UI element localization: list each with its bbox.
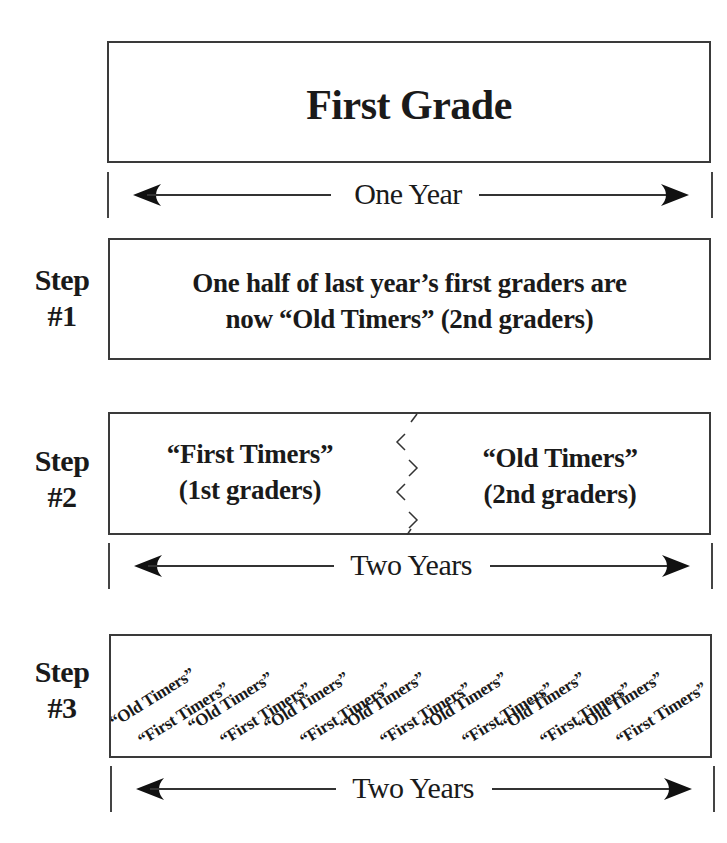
first-timers-group: “First Timers” (1st graders) bbox=[130, 436, 370, 508]
first-timers-label: “First Timers” bbox=[130, 436, 370, 472]
ruler-tick-left bbox=[108, 543, 110, 589]
step-1-text-line2: now “Old Timers” (2nd graders) bbox=[110, 301, 709, 337]
old-timers-label: “Old Timers” bbox=[445, 440, 675, 476]
step-1-text-line1: One half of last year’s first graders ar… bbox=[110, 265, 709, 301]
ruler-line-left bbox=[148, 565, 334, 567]
first-grade-box: First Grade bbox=[107, 41, 711, 163]
step-2-number: #2 bbox=[22, 479, 102, 515]
ruler-tick-left bbox=[110, 766, 112, 812]
arrow-right-icon bbox=[660, 555, 690, 577]
arrow-right-icon bbox=[659, 184, 689, 206]
two-years-ruler-2: Two Years bbox=[110, 766, 716, 812]
old-timers-group: “Old Timers” (2nd graders) bbox=[445, 440, 675, 512]
step-3-word: Step bbox=[22, 654, 102, 690]
ruler-line-right bbox=[479, 194, 669, 196]
zigzag-divider-icon bbox=[385, 412, 425, 535]
ruler-tick-left bbox=[107, 172, 109, 218]
ruler-line-right bbox=[492, 788, 672, 790]
ruler-line-left bbox=[147, 194, 331, 196]
step-3-box: “Old Timers” “First Timers” “Old Timers”… bbox=[109, 634, 712, 758]
ruler-label: One Year bbox=[341, 174, 475, 214]
ruler-line-right bbox=[490, 565, 670, 567]
step-1-label: Step #1 bbox=[22, 262, 102, 334]
step-2-label: Step #2 bbox=[22, 443, 102, 515]
first-grade-title: First Grade bbox=[109, 81, 709, 129]
ruler-tick-right bbox=[711, 543, 713, 589]
arrow-right-icon bbox=[662, 778, 692, 800]
step-1-number: #1 bbox=[22, 298, 102, 334]
step-1-text: One half of last year’s first graders ar… bbox=[110, 265, 709, 337]
ruler-line-left bbox=[150, 788, 336, 790]
step-3-number: #3 bbox=[22, 690, 102, 726]
step-2-box: “First Timers” (1st graders) “Old Timers… bbox=[108, 412, 711, 535]
two-years-ruler-1: Two Years bbox=[108, 543, 714, 589]
one-year-ruler: One Year bbox=[107, 172, 713, 218]
first-timers-sublabel: (1st graders) bbox=[130, 472, 370, 508]
ruler-tick-right bbox=[711, 172, 713, 218]
ruler-label: Two Years bbox=[340, 768, 486, 808]
ruler-tick-right bbox=[713, 766, 715, 812]
old-timers-sublabel: (2nd graders) bbox=[445, 476, 675, 512]
step-1-word: Step bbox=[22, 262, 102, 298]
ruler-label: Two Years bbox=[338, 545, 484, 585]
step-3-label: Step #3 bbox=[22, 654, 102, 726]
step-1-box: One half of last year’s first graders ar… bbox=[108, 238, 711, 360]
step-2-word: Step bbox=[22, 443, 102, 479]
